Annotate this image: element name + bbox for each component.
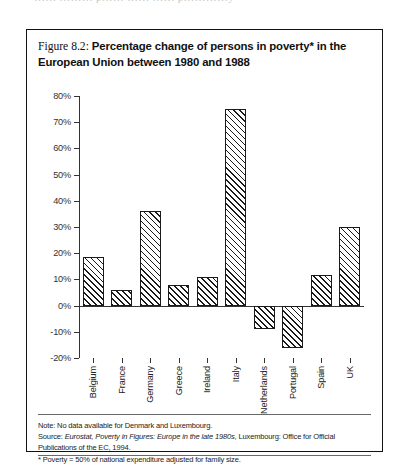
- y-axis-tick-label: 10%: [53, 274, 71, 284]
- y-axis-tick-label: -20%: [50, 353, 71, 363]
- x-axis-label-italy: Italy: [231, 366, 241, 382]
- notes-divider: [38, 414, 371, 415]
- bar-belgium: [83, 257, 104, 305]
- y-axis-tick: [74, 227, 79, 228]
- bottom-divider: [38, 455, 371, 456]
- y-axis-tick-label: -10%: [50, 327, 71, 337]
- y-axis-tick-label: 0%: [58, 301, 71, 311]
- x-axis-baseline: [74, 358, 79, 359]
- y-axis-tick-label: 40%: [53, 196, 71, 206]
- x-axis-tick: [207, 358, 208, 363]
- y-axis-tick: [74, 201, 79, 202]
- y-axis-tick: [74, 148, 79, 149]
- x-axis-tick: [150, 358, 151, 363]
- x-axis-label-netherlands: Netherlands: [259, 366, 269, 414]
- x-axis-tick: [293, 358, 294, 363]
- clipped-header-text: …… ……… p…… …… …… p…………y: [0, 0, 411, 26]
- y-axis-tick: [74, 332, 79, 333]
- x-axis-label-spain: Spain: [316, 366, 326, 389]
- y-axis-tick-label: 30%: [53, 222, 71, 232]
- clipped-header-label: …… ……… p…… …… …… p…………y: [34, 0, 234, 3]
- y-axis-tick: [74, 253, 79, 254]
- x-axis-tick: [236, 358, 237, 363]
- bar-italy: [225, 109, 246, 306]
- y-axis-tick: [74, 175, 79, 176]
- y-axis-tick: [74, 279, 79, 280]
- y-axis-tick-label: 20%: [53, 248, 71, 258]
- x-axis-label-uk: UK: [345, 366, 355, 378]
- x-axis-label-germany: Germany: [145, 366, 155, 403]
- source-prefix: Source:: [38, 432, 63, 441]
- x-axis-tick: [93, 358, 94, 363]
- x-axis-tick: [264, 358, 265, 363]
- bar-ireland: [197, 277, 218, 306]
- y-axis-tick: [74, 122, 79, 123]
- y-axis-tick: [74, 96, 79, 97]
- x-axis-tick: [321, 358, 322, 363]
- y-axis-tick-label: 70%: [53, 117, 71, 127]
- figure-box: Figure 8.2: Percentage change of persons…: [26, 29, 383, 452]
- y-axis-tick-label: 50%: [53, 170, 71, 180]
- source-title: Eurostat, Poverty in Figures: Europe in …: [65, 432, 237, 441]
- y-axis-line: [79, 96, 80, 358]
- x-axis-label-portugal: Portugal: [288, 366, 298, 399]
- y-axis-tick-label: 80%: [53, 91, 71, 101]
- plot-area: 80%70%60%50%40%30%20%10%0%-10%-20%Belgiu…: [79, 96, 364, 358]
- x-axis-label-belgium: Belgium: [88, 366, 98, 398]
- bar-spain: [311, 275, 332, 305]
- bar-greece: [168, 285, 189, 306]
- x-axis-tick: [350, 358, 351, 363]
- y-axis-tick-label: 60%: [53, 143, 71, 153]
- x-axis-tick: [122, 358, 123, 363]
- note-line: Note: No data available for Denmark and …: [38, 420, 374, 431]
- x-axis-label-greece: Greece: [174, 366, 184, 395]
- source-line: Source: Eurostat, Poverty in Figures: Eu…: [38, 431, 374, 453]
- bar-netherlands: [254, 306, 275, 330]
- figure-notes: Note: No data available for Denmark and …: [38, 420, 374, 465]
- y-axis-tick: [74, 306, 79, 307]
- zero-baseline: [79, 306, 364, 307]
- x-axis-label-ireland: Ireland: [202, 366, 212, 393]
- bar-uk: [339, 227, 360, 306]
- bar-germany: [140, 211, 161, 305]
- bar-france: [111, 290, 132, 306]
- x-axis-tick: [179, 358, 180, 363]
- bar-chart: 80%70%60%50%40%30%20%10%0%-10%-20%Belgiu…: [27, 30, 384, 453]
- x-axis-label-france: France: [117, 366, 127, 394]
- bar-portugal: [282, 306, 303, 348]
